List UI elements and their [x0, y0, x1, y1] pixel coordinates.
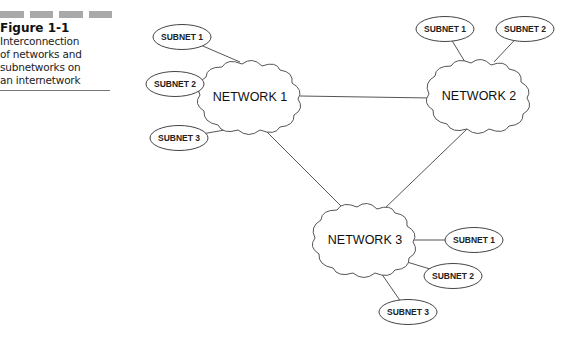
network-link: [265, 130, 345, 210]
network-node: NETWORK 2: [426, 59, 529, 133]
subnet-label: SUBNET 1: [161, 32, 203, 42]
subnet-label: SUBNET 2: [432, 271, 474, 281]
subnet-node: SUBNET 2: [496, 17, 554, 42]
subnet-node: SUBNET 2: [146, 72, 204, 97]
network-node: NETWORK 3: [312, 203, 415, 277]
subnet-node: SUBNET 1: [445, 228, 503, 253]
subnet-label: SUBNET 3: [387, 307, 429, 317]
subnet-node: SUBNET 2: [424, 264, 482, 289]
subnet-label: SUBNET 1: [453, 235, 495, 245]
network-node: NETWORK 1: [197, 60, 300, 134]
subnet-label: SUBNET 2: [504, 24, 546, 34]
subnet-label: SUBNET 3: [158, 133, 200, 143]
network-label: NETWORK 3: [328, 233, 402, 247]
network-label: NETWORK 2: [442, 89, 516, 103]
subnet-node: SUBNET 3: [150, 126, 208, 151]
subnet-ellipses: SUBNET 1SUBNET 2SUBNET 3SUBNET 1SUBNET 2…: [146, 17, 554, 325]
subnet-label: SUBNET 2: [154, 79, 196, 89]
subnet-label: SUBNET 1: [424, 24, 466, 34]
subnet-node: SUBNET 1: [153, 25, 211, 50]
network-diagram: NETWORK 1NETWORK 2NETWORK 3 SUBNET 1SUBN…: [0, 0, 578, 342]
subnet-node: SUBNET 3: [379, 300, 437, 325]
network-link: [300, 96, 431, 98]
network-label: NETWORK 1: [213, 90, 287, 104]
network-link: [383, 129, 467, 210]
subnet-node: SUBNET 1: [416, 17, 474, 42]
